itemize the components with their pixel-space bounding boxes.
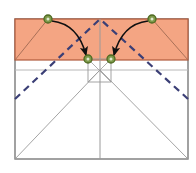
folded-flap-band <box>15 19 188 60</box>
marker-target-right[interactable] <box>107 55 115 63</box>
fold-diagram-figure <box>0 0 196 173</box>
diagram-canvas <box>0 0 196 173</box>
marker-target-left[interactable] <box>84 55 92 63</box>
marker-source-left[interactable] <box>44 15 52 23</box>
marker-source-right[interactable] <box>148 15 156 23</box>
